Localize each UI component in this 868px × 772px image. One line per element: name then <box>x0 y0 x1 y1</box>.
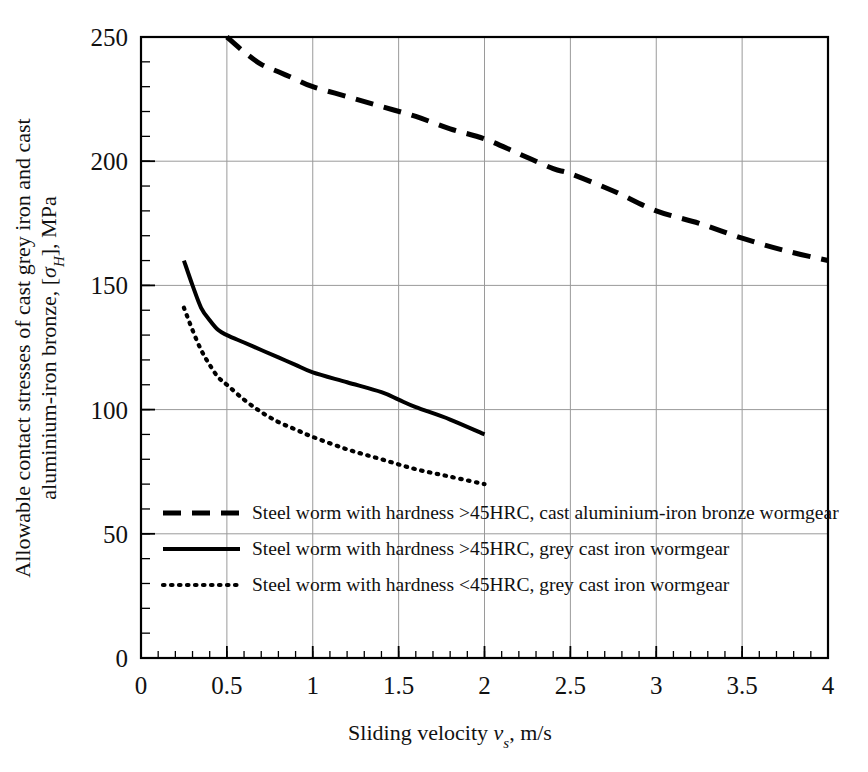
x-axis-title: Sliding velocity vs, m/s <box>348 720 552 751</box>
y-tick-label: 250 <box>91 24 129 51</box>
x-tick-label: 1 <box>307 672 320 699</box>
y-tick-label: 150 <box>91 272 129 299</box>
x-tick-label: 1.5 <box>383 672 414 699</box>
y-tick-label: 100 <box>91 397 129 424</box>
contact-stress-chart: 00.511.522.533.54 050100150200250 Steel … <box>0 0 868 772</box>
y-tick-label: 50 <box>103 521 128 548</box>
x-tick-label: 0 <box>135 672 148 699</box>
x-tick-label: 3.5 <box>727 672 758 699</box>
x-tick-label: 4 <box>822 672 835 699</box>
legend-label-2: Steel worm with hardness >45HRC, grey ca… <box>252 538 730 559</box>
x-tick-label: 3 <box>650 672 663 699</box>
legend-label-3: Steel worm with hardness <45HRC, grey ca… <box>252 574 730 595</box>
y-tick-label: 0 <box>116 645 129 672</box>
x-tick-label: 2 <box>478 672 491 699</box>
legend-label-1: Steel worm with hardness >45HRC, cast al… <box>252 502 839 523</box>
x-tick-label: 2.5 <box>555 672 586 699</box>
figure-root: 00.511.522.533.54 050100150200250 Steel … <box>0 0 868 772</box>
y-axis-title-line1: Allowable contact stresses of cast grey … <box>10 118 35 577</box>
y-tick-label: 200 <box>91 148 129 175</box>
y-axis-title-line2: aluminium-iron bronze, [σH], MPa <box>36 196 67 500</box>
y-tick-labels: 050100150200250 <box>91 24 129 672</box>
x-tick-labels: 00.511.522.533.54 <box>135 672 835 699</box>
x-tick-label: 0.5 <box>211 672 242 699</box>
